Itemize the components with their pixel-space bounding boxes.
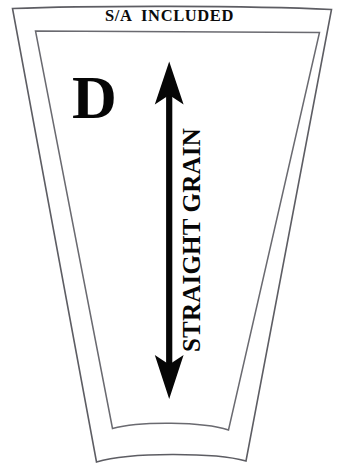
straight-grain-label: STRAIGHT GRAIN xyxy=(178,104,206,352)
pattern-piece-diagram: S/A INCLUDED D STRAIGHT GRAIN xyxy=(0,0,339,472)
pattern-outline-svg xyxy=(0,0,339,472)
straight-grain-label-wrapper: STRAIGHT GRAIN xyxy=(178,0,206,104)
seam-allowance-title: S/A INCLUDED xyxy=(0,6,339,26)
piece-letter-label: D xyxy=(72,66,117,128)
